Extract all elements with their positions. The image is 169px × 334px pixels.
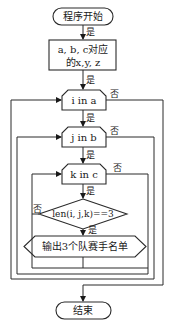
- output-label: 输出3个队赛手名单: [42, 240, 128, 252]
- yes-label: 是: [88, 225, 97, 235]
- loop-i-label: i in a: [71, 95, 96, 106]
- loop-j-exit-line: [106, 137, 154, 279]
- loop-i-box: i in a: [62, 90, 106, 110]
- no-label: 否: [110, 89, 119, 99]
- assign-line-2: 的x,y, z: [66, 56, 101, 68]
- no-label: 否: [110, 126, 119, 136]
- condition-diamond: len(i, j,k)==3: [39, 199, 127, 229]
- start-terminator: 程序开始: [53, 8, 113, 25]
- no-label: 否: [113, 163, 122, 173]
- yes-label: 是: [86, 75, 95, 85]
- output-hexagon: 输出3个队赛手名单: [24, 236, 146, 257]
- no-label: 否: [33, 204, 42, 214]
- flowchart-canvas: 程序开始 是 a, b, c对应 的x,y, z 是 i in a 否 是 j …: [0, 0, 169, 334]
- loop-j-box: j in b: [62, 127, 106, 147]
- start-label: 程序开始: [63, 10, 103, 22]
- condition-label: len(i, j,k)==3: [52, 209, 114, 219]
- end-terminator: 结束: [56, 302, 111, 319]
- loop-k-box: k in c: [62, 164, 106, 184]
- yes-label: 是: [86, 113, 95, 123]
- assign-process-box: a, b, c对应 的x,y, z: [49, 40, 116, 70]
- loop-k-exit-line: [106, 174, 148, 274]
- end-label: 结束: [73, 304, 93, 316]
- assign-line-1: a, b, c对应: [58, 43, 109, 55]
- yes-label: 是: [86, 27, 95, 37]
- loop-j-label: j in b: [70, 132, 97, 143]
- yes-label: 是: [86, 186, 95, 196]
- loop-k-label: k in c: [70, 169, 98, 180]
- yes-label: 是: [86, 150, 95, 160]
